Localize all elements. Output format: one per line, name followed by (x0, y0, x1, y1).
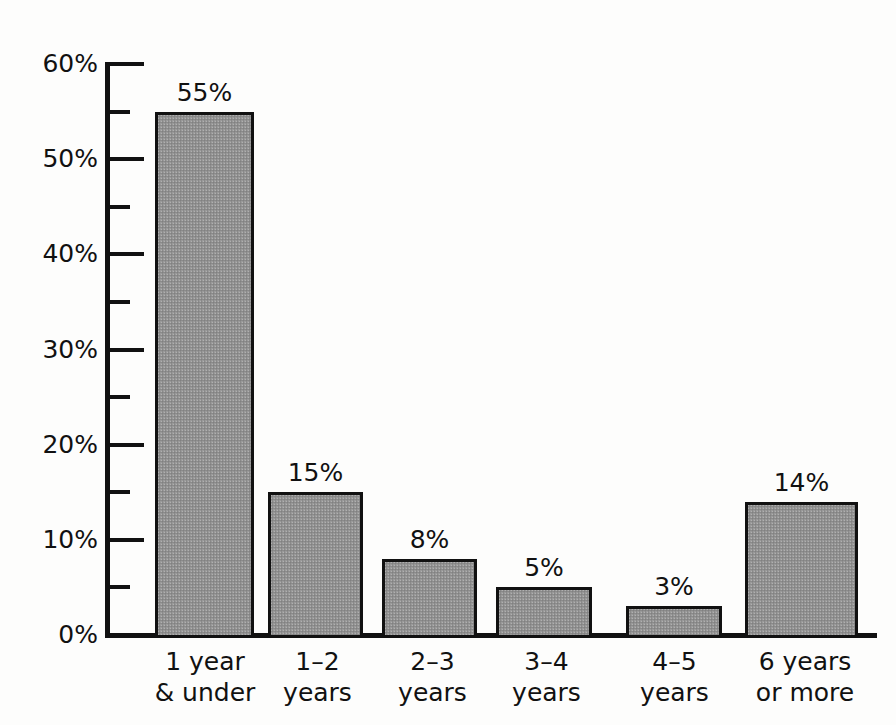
x-axis-category-label: 4–5years (612, 646, 737, 708)
bar-value-label: 8% (382, 527, 477, 552)
x-axis-category-label-line: 6 years (730, 646, 880, 677)
bar (268, 492, 363, 638)
y-axis-major-tick (108, 157, 144, 161)
x-axis-category-label: 1–2years (255, 646, 380, 708)
y-axis-tick-label: 0% (6, 622, 98, 647)
y-axis-major-tick (108, 538, 144, 542)
x-axis-category-label-line: 1–2 (255, 646, 380, 677)
plot-area: 0%10%20%30%40%50%60% 55%15%8%5%3%14% 1 y… (0, 0, 896, 725)
y-axis-tick-label: 40% (6, 241, 98, 266)
y-axis-minor-tick (108, 585, 130, 589)
x-axis-category-label: 3–4years (484, 646, 609, 708)
bar (496, 587, 592, 638)
x-axis-category-label-line: 2–3 (370, 646, 495, 677)
x-axis-category-label: 6 yearsor more (730, 646, 880, 708)
y-axis-major-tick (108, 633, 144, 637)
y-axis-tick-label: 20% (6, 432, 98, 457)
bar (155, 112, 254, 638)
y-axis-minor-tick (108, 395, 130, 399)
y-axis-tick-label: 10% (6, 527, 98, 552)
x-axis-category-label: 2–3years (370, 646, 495, 708)
y-axis-tick-label: 50% (6, 146, 98, 171)
y-axis-minor-tick (108, 300, 130, 304)
y-axis-minor-tick (108, 110, 130, 114)
x-axis-category-label-line: years (370, 677, 495, 708)
x-axis-category-label-line: 3–4 (484, 646, 609, 677)
bar-value-label: 3% (626, 574, 722, 599)
bar (626, 606, 722, 638)
y-axis-major-tick (108, 62, 144, 66)
bar-chart-figure: 0%10%20%30%40%50%60% 55%15%8%5%3%14% 1 y… (0, 0, 896, 725)
x-axis-category-label-line: 4–5 (612, 646, 737, 677)
x-axis-category-label-line: or more (730, 677, 880, 708)
bar (382, 559, 477, 638)
y-axis-tick-label: 60% (6, 51, 98, 76)
y-axis-major-tick (108, 443, 144, 447)
y-axis-minor-tick (108, 490, 130, 494)
x-axis-category-label-line: years (612, 677, 737, 708)
bar (745, 502, 858, 638)
y-axis-major-tick (108, 348, 144, 352)
bar-value-label: 15% (268, 460, 363, 485)
bar-value-label: 14% (745, 470, 858, 495)
x-axis-category-label-line: years (255, 677, 380, 708)
bar-value-label: 5% (496, 555, 592, 580)
y-axis-tick-label: 30% (6, 337, 98, 362)
y-axis-minor-tick (108, 205, 130, 209)
y-axis-major-tick (108, 252, 144, 256)
x-axis-category-label-line: years (484, 677, 609, 708)
bar-value-label: 55% (155, 80, 254, 105)
